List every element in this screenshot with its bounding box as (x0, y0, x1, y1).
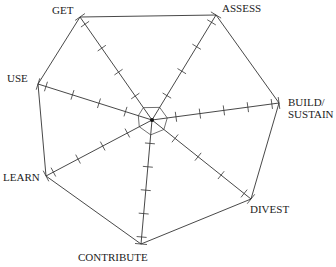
tick-get (114, 69, 122, 75)
edge-get-assess (80, 15, 216, 17)
tick-get (81, 21, 89, 27)
tick-assess (163, 93, 172, 98)
label-build-line2: SUSTAIN (288, 108, 334, 120)
tick-learn (100, 142, 105, 151)
label-contribute: CONTRIBUTE (78, 251, 148, 263)
edge-use-get (38, 17, 80, 84)
spoke-divest (152, 120, 251, 199)
edge-contribute-learn (46, 176, 141, 244)
spoke-get (80, 17, 152, 120)
tick-divest (218, 171, 224, 179)
tick-divest (241, 190, 247, 198)
edge-assess-build (216, 15, 279, 103)
tick-learn (51, 168, 56, 177)
spoke-contribute (141, 120, 152, 244)
tick-contribute (145, 143, 155, 144)
edge-divest-contribute (141, 199, 251, 244)
label-learn: LEARN (3, 171, 40, 183)
tick-get (98, 45, 106, 51)
edge-build-divest (251, 103, 279, 199)
vertex-mark-contribute (135, 243, 147, 244)
spoke-use (38, 84, 152, 120)
label-build-line1: BUILD/ (288, 96, 325, 108)
label-assess: ASSESS (222, 2, 261, 14)
tick-divest (172, 134, 178, 142)
radial-cycle-diagram (0, 0, 336, 267)
spoke-assess (152, 15, 216, 120)
label-divest: DIVEST (250, 203, 289, 215)
tick-contribute (141, 190, 151, 191)
edge-learn-use (38, 84, 46, 176)
label-get: GET (52, 4, 73, 16)
tick-assess (177, 69, 186, 74)
tick-learn (76, 155, 81, 164)
tick-assess (192, 44, 201, 49)
label-use: USE (7, 72, 28, 84)
label-build: BUILD/ SUSTAIN (288, 96, 334, 120)
tick-assess (207, 20, 216, 25)
tick-contribute (137, 237, 147, 238)
tick-learn (125, 129, 130, 138)
tick-get (131, 93, 139, 99)
spoke-build (152, 103, 279, 120)
center-dot (150, 118, 154, 122)
tick-contribute (139, 213, 149, 214)
spoke-learn (46, 120, 152, 176)
tick-contribute (143, 166, 153, 167)
tick-divest (195, 153, 201, 161)
